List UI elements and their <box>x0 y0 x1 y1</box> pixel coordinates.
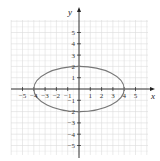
x-tick-label: 2 <box>100 92 104 100</box>
y-tick-label: 1 <box>72 74 76 82</box>
y-axis-label: y <box>67 7 72 17</box>
y-tick-label: −3 <box>68 119 76 127</box>
x-tick-label: 5 <box>134 92 138 100</box>
y-tick-label: 5 <box>72 29 76 37</box>
y-tick-label: 3 <box>72 52 76 60</box>
x-tick-label: −5 <box>19 92 27 100</box>
y-tick-label: 2 <box>72 63 76 71</box>
x-tick-label: −4 <box>30 92 38 100</box>
axes <box>11 7 155 158</box>
y-tick-label: −2 <box>68 108 76 116</box>
y-tick-label: −5 <box>68 142 76 150</box>
grid <box>11 20 148 155</box>
x-tick-label: 4 <box>122 92 126 100</box>
x-tick-label: 3 <box>111 92 115 100</box>
tick-labels: −5−4−3−2−112345−5−4−3−2−112345 <box>19 29 138 150</box>
y-tick-label: −4 <box>68 131 76 139</box>
x-tick-label: −2 <box>53 92 61 100</box>
x-tick-label: −3 <box>41 92 49 100</box>
x-tick-label: 1 <box>89 92 93 100</box>
x-axis-label: x <box>150 91 155 101</box>
y-axis-arrow-icon <box>77 7 81 12</box>
ellipse-graph: −5−4−3−2−112345−5−4−3−2−112345 x y <box>0 0 160 161</box>
y-tick-label: −1 <box>68 97 76 105</box>
y-tick-label: 4 <box>72 40 76 48</box>
